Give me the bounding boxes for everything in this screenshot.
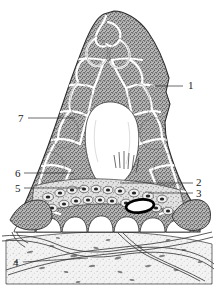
connective-tissue-layer <box>2 231 214 284</box>
label-3: 3 <box>196 187 202 199</box>
label-7: 7 <box>18 112 24 124</box>
label-6: 6 <box>15 167 21 179</box>
histology-figure: 1 2 3 4 5 6 7 <box>0 0 217 290</box>
label-4: 4 <box>13 256 19 268</box>
label-1: 1 <box>188 79 194 91</box>
figure-root: 1 2 3 4 5 6 7 <box>0 0 217 290</box>
label-5: 5 <box>15 182 21 194</box>
